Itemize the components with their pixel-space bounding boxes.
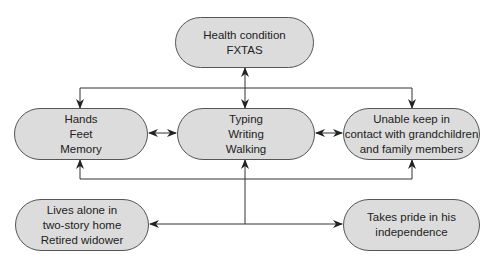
node-text: Typing (229, 112, 263, 127)
node-text: two-story home (43, 218, 122, 233)
node-activities: Typing Writing Walking (177, 108, 315, 160)
node-body-functions: Hands Feet Memory (14, 108, 148, 160)
node-text: Writing (228, 127, 264, 142)
node-text: Walking (226, 142, 266, 157)
node-health-condition: Health condition FXTAS (175, 17, 314, 68)
edge-health-body (80, 88, 245, 108)
node-text: and family members (360, 142, 464, 157)
node-text: independence (375, 225, 447, 240)
node-personal-factors: Takes pride in his independence (343, 199, 480, 251)
edge-context-participation (245, 160, 412, 179)
node-environmental-factors: Lives alone in two-story home Retired wi… (15, 199, 149, 251)
node-text: Lives alone in (47, 203, 117, 218)
edge-health-participation (245, 88, 412, 108)
node-participation: Unable keep in contact with grandchildre… (343, 108, 480, 160)
node-text: Hands (64, 112, 97, 127)
node-text: Memory (60, 142, 102, 157)
node-text: FXTAS (226, 43, 262, 58)
edge-context-body (80, 160, 245, 179)
node-text: Unable keep in (373, 112, 450, 127)
node-text: Retired widower (41, 233, 123, 248)
node-text: Health condition (203, 28, 285, 43)
node-text: Takes pride in his (367, 210, 456, 225)
node-text: Feet (69, 127, 92, 142)
node-text: contact with grandchildren (345, 127, 479, 142)
